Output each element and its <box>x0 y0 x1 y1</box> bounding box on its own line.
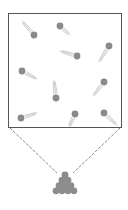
gas-particle <box>53 80 60 101</box>
particle-dot <box>72 111 79 118</box>
particle-dot <box>101 79 108 86</box>
gas-particle <box>99 43 112 62</box>
gas-particles <box>18 21 117 127</box>
pile-particle <box>53 187 60 194</box>
particle-dot <box>57 23 64 30</box>
gas-particle <box>19 68 37 79</box>
motion-trail <box>108 115 116 123</box>
motion-trail <box>93 86 101 96</box>
particle-dot <box>101 110 108 117</box>
gas-particle <box>57 23 70 35</box>
motion-trail <box>53 82 54 94</box>
motion-trail <box>95 87 102 95</box>
gas-particle <box>22 21 37 38</box>
pile-particle <box>65 187 72 194</box>
gas-particle <box>101 110 117 125</box>
funnel-line-right <box>73 128 120 173</box>
motion-trail <box>93 85 99 94</box>
gas-particle <box>93 79 107 96</box>
dashed-funnel-lines <box>10 128 120 173</box>
motion-trail <box>107 116 117 125</box>
gas-particle <box>18 113 37 122</box>
diagram-canvas <box>0 0 128 210</box>
particle-dot <box>19 68 26 75</box>
pile-particle <box>59 187 66 194</box>
motion-trail <box>99 49 105 60</box>
motion-trail <box>22 21 31 32</box>
particle-dot <box>53 95 60 102</box>
funnel-line-left <box>10 128 57 173</box>
motion-trail <box>26 73 37 79</box>
pile-particle <box>71 187 78 194</box>
motion-trail <box>99 50 107 62</box>
motion-trail <box>101 51 108 61</box>
particle-dot <box>106 43 113 50</box>
particle-condensation-diagram <box>0 0 128 210</box>
particle-dot <box>74 53 81 60</box>
particle-dot <box>31 32 38 39</box>
particle-dot <box>18 115 25 122</box>
condensed-particle-pile <box>53 172 78 195</box>
gas-particle <box>69 111 78 127</box>
gas-particle <box>60 51 80 60</box>
motion-trail <box>106 117 115 124</box>
